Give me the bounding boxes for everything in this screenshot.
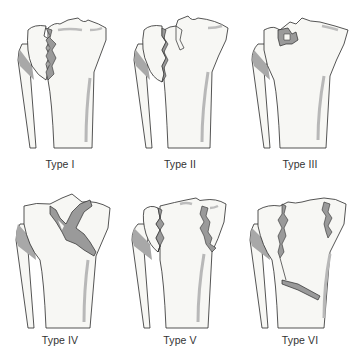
tibia-type-6-illustration bbox=[240, 180, 360, 340]
panel-label: Type I bbox=[0, 158, 120, 170]
panel-label: Type III bbox=[240, 158, 360, 170]
panel-type-2: Type II bbox=[120, 0, 240, 175]
panel-type-1: Type I bbox=[0, 0, 120, 175]
tibia-type-4-illustration bbox=[0, 180, 120, 340]
panel-label: Type IV bbox=[0, 334, 120, 346]
panel-type-6: Type VI bbox=[240, 180, 360, 353]
tibia-type-1-illustration bbox=[0, 0, 120, 160]
panel-type-3: Type III bbox=[240, 0, 360, 175]
panel-label: Type V bbox=[120, 334, 240, 346]
panel-type-4: Type IV bbox=[0, 180, 120, 353]
panel-label: Type VI bbox=[240, 334, 360, 346]
panel-type-5: Type V bbox=[120, 180, 240, 353]
fracture-classification-figure: Type I Type II Type III bbox=[0, 0, 360, 353]
tibia-type-2-illustration bbox=[120, 0, 240, 160]
panel-label: Type II bbox=[120, 158, 240, 170]
tibia-type-3-illustration bbox=[240, 0, 360, 160]
tibia-type-5-illustration bbox=[120, 180, 240, 340]
